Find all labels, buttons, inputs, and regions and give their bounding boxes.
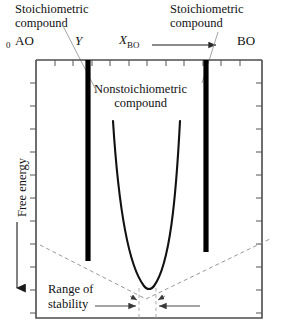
stability-tick-arrow-right (158, 296, 165, 300)
free-energy-composition-diagram: Stoichiometric compound Stoichiometric c… (0, 0, 282, 329)
tangent-line-right (146, 238, 272, 299)
free-energy-curve (113, 121, 180, 289)
leader-line-left (62, 24, 97, 92)
right-axis-ticks (256, 83, 262, 313)
stability-tick-arrow-left (130, 296, 137, 300)
diagram-canvas (0, 0, 282, 329)
plot-frame (36, 60, 262, 318)
left-axis-ticks (30, 83, 36, 313)
